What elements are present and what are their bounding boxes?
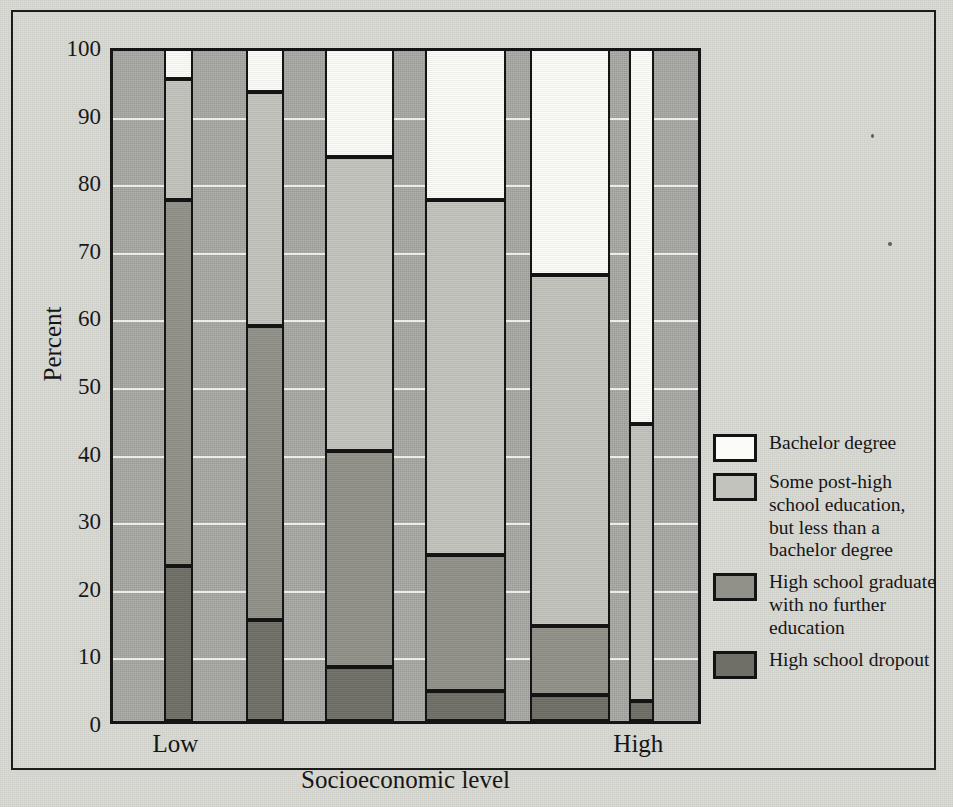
x-tick-high: High [613, 730, 663, 758]
bar-4-segment-bachelor-degree [425, 48, 506, 200]
y-tick-40: 40 [78, 443, 101, 466]
segment-texture [166, 568, 191, 719]
legend-swatch-high-school-dropout [713, 651, 757, 679]
legend-swatch-high-school-graduate [713, 573, 757, 601]
chart-legend: Bachelor degreeSome post-highschool educ… [713, 432, 935, 688]
segment-texture [631, 426, 652, 699]
y-axis-label: Percent [39, 264, 67, 424]
y-tick-100: 100 [67, 37, 102, 60]
gridline-20 [113, 591, 698, 593]
segment-texture [248, 48, 282, 90]
legend-label-line: Some post-high [769, 471, 905, 494]
segment-texture [248, 328, 282, 618]
y-tick-70: 70 [78, 240, 101, 263]
bar-1-segment-high-school-dropout [164, 566, 193, 721]
legend-label-line: bachelor degree [769, 539, 905, 562]
legend-label-high-school-dropout: High school dropout [769, 649, 929, 672]
segment-texture [532, 277, 608, 625]
y-tick-30: 30 [78, 510, 101, 533]
legend-label-line: High school dropout [769, 649, 929, 672]
segment-texture [166, 48, 191, 77]
bar-2-segment-some-post-high-school [246, 92, 284, 325]
y-tick-90: 90 [78, 105, 101, 128]
segment-texture [427, 693, 504, 719]
y-tick-10: 10 [78, 645, 101, 668]
bar-6-segment-some-post-high-school [629, 424, 654, 701]
y-tick-20: 20 [78, 578, 101, 601]
gridline-60 [113, 320, 698, 322]
y-tick-0: 0 [90, 713, 102, 736]
segment-texture [427, 48, 504, 198]
y-tick-60: 60 [78, 307, 101, 330]
legend-label-high-school-graduate: High school graduatewith no furthereduca… [769, 571, 936, 639]
gridline-70 [113, 253, 698, 255]
segment-texture [427, 202, 504, 553]
gridline-30 [113, 523, 698, 525]
segment-texture [166, 202, 191, 563]
segment-texture [631, 48, 652, 422]
bar-3-segment-some-post-high-school [325, 157, 394, 451]
bar-4 [425, 48, 506, 721]
bar-3-segment-bachelor-degree [325, 48, 394, 157]
bar-1-segment-some-post-high-school [164, 79, 193, 201]
segment-texture [427, 557, 504, 688]
legend-label-line: High school graduate [769, 571, 936, 594]
x-axis-label: Socioeconomic level [110, 766, 701, 794]
legend-label-line: school education, [769, 494, 905, 517]
legend-label-line: but less than a [769, 517, 905, 540]
segment-texture [327, 159, 392, 449]
segment-texture [532, 628, 608, 693]
bar-2 [246, 48, 284, 721]
bar-1-segment-high-school-graduate [164, 200, 193, 565]
gridline-80 [113, 185, 698, 187]
bar-3-segment-high-school-dropout [325, 667, 394, 721]
legend-label-some-post-high-school: Some post-highschool education,but less … [769, 471, 905, 562]
bar-4-segment-high-school-graduate [425, 555, 506, 690]
legend-label-line: with no further [769, 594, 936, 617]
bar-5-segment-some-post-high-school [530, 275, 610, 627]
bar-5 [530, 48, 610, 721]
segment-texture [532, 48, 608, 273]
bar-1 [164, 48, 193, 721]
bar-2-segment-high-school-graduate [246, 326, 284, 620]
legend-swatch-bachelor-degree [713, 434, 757, 462]
gridline-40 [113, 456, 698, 458]
segment-texture [327, 453, 392, 665]
segment-texture [248, 622, 282, 719]
y-tick-50: 50 [78, 375, 101, 398]
segment-texture [327, 669, 392, 719]
y-tick-80: 80 [78, 172, 101, 195]
legend-swatch-some-post-high-school [713, 473, 757, 501]
bar-6 [629, 48, 654, 721]
bar-5-segment-bachelor-degree [530, 48, 610, 275]
bar-2-segment-high-school-dropout [246, 620, 284, 721]
legend-item-high-school-dropout: High school dropout [713, 649, 935, 679]
gridline-50 [113, 388, 698, 390]
plot-area [110, 48, 701, 724]
legend-label-bachelor-degree: Bachelor degree [769, 432, 896, 455]
segment-texture [327, 48, 392, 155]
segment-texture [532, 697, 608, 719]
segment-texture [166, 81, 191, 199]
print-speck [888, 242, 892, 246]
segment-texture [631, 703, 652, 719]
legend-item-some-post-high-school: Some post-highschool education,but less … [713, 471, 935, 562]
plot-texture [113, 51, 698, 721]
legend-label-line: Bachelor degree [769, 432, 896, 455]
segment-texture [248, 94, 282, 323]
gridline-90 [113, 118, 698, 120]
legend-label-line: education [769, 617, 936, 640]
legend-item-bachelor-degree: Bachelor degree [713, 432, 935, 462]
legend-item-high-school-graduate: High school graduatewith no furthereduca… [713, 571, 935, 639]
print-speck [871, 134, 874, 138]
bar-4-segment-high-school-dropout [425, 691, 506, 721]
bar-6-segment-bachelor-degree [629, 48, 654, 424]
bar-4-segment-some-post-high-school [425, 200, 506, 555]
bar-5-segment-high-school-graduate [530, 626, 610, 695]
bar-3 [325, 48, 394, 721]
gridline-10 [113, 658, 698, 660]
bar-2-segment-bachelor-degree [246, 48, 284, 92]
x-tick-low: Low [152, 730, 198, 758]
bar-1-segment-bachelor-degree [164, 48, 193, 79]
bar-6-segment-high-school-dropout [629, 701, 654, 721]
